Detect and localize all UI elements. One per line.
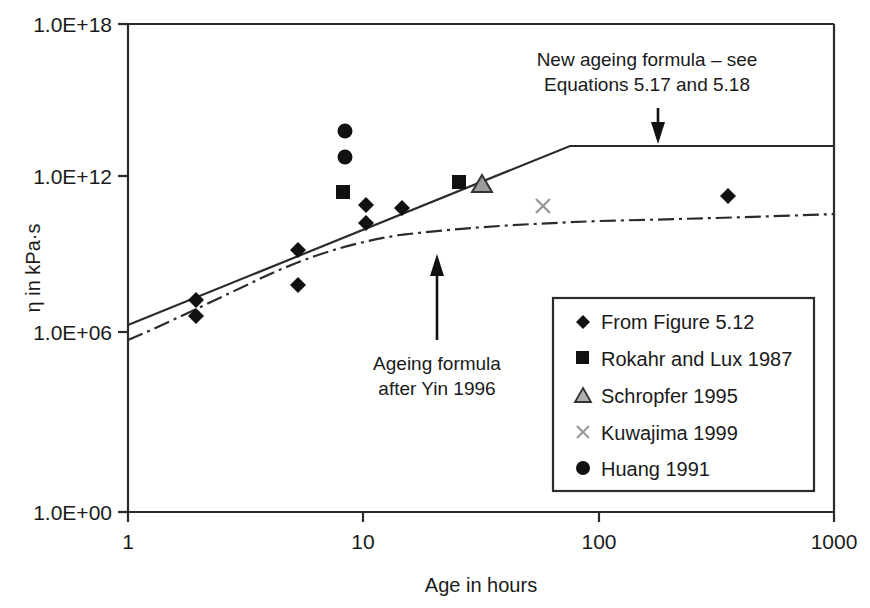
yin-ageing-formula-line2: after Yin 1996 xyxy=(378,378,495,399)
legend-label-kuwajima-1999: Kuwajima 1999 xyxy=(601,422,738,444)
x-tick-label-10: 10 xyxy=(351,530,374,553)
x-tick-label-1: 1 xyxy=(122,530,134,553)
legend-marker-circle-icon xyxy=(576,461,590,475)
marker-figure512-2 xyxy=(188,308,204,324)
marker-rokahr-2 xyxy=(452,175,466,189)
annotation-arrow-up-icon xyxy=(430,254,444,340)
marker-kuwajima-1 xyxy=(536,199,550,213)
x-axis-ticks xyxy=(128,512,834,522)
legend-label-from-figure-512: From Figure 5.12 xyxy=(601,311,754,333)
legend-label-huang-1991: Huang 1991 xyxy=(601,458,710,480)
marker-figure512-6 xyxy=(358,215,374,231)
data-markers xyxy=(188,124,736,325)
marker-rokahr-1 xyxy=(336,185,350,199)
new-ageing-formula-annotation: New ageing formula – see Equations 5.17 … xyxy=(537,49,758,144)
marker-figure512-4 xyxy=(290,277,306,293)
y-axis-ticks xyxy=(118,24,128,512)
marker-figure512-7 xyxy=(394,200,410,216)
legend-label-schropfer-1995: Schropfer 1995 xyxy=(601,385,738,407)
y-tick-label-1e18: 1.0E+18 xyxy=(33,13,112,36)
x-axis-title: Age in hours xyxy=(425,574,537,596)
marker-figure512-8 xyxy=(720,188,736,204)
x-axis-tick-labels: 1 10 100 1000 xyxy=(122,530,857,553)
annotation-arrow-down-icon xyxy=(651,108,665,144)
y-tick-label-1e00: 1.0E+00 xyxy=(33,501,112,524)
x-tick-label-1000: 1000 xyxy=(811,530,858,553)
marker-figure512-5 xyxy=(358,197,374,213)
marker-figure512-3 xyxy=(290,242,306,258)
new-ageing-formula-line1: New ageing formula – see xyxy=(537,49,758,70)
y-tick-label-1e06: 1.0E+06 xyxy=(33,321,112,344)
yin-ageing-formula-line1: Ageing formula xyxy=(373,353,501,374)
legend: From Figure 5.12 Rokahr and Lux 1987 Sch… xyxy=(553,298,814,491)
marker-huang-2 xyxy=(338,150,353,165)
marker-huang-1 xyxy=(338,124,353,139)
x-tick-label-100: 100 xyxy=(581,530,616,553)
y-axis-tick-labels: 1.0E+18 1.0E+12 1.0E+06 1.0E+00 xyxy=(33,13,112,524)
yin-ageing-formula-annotation: Ageing formula after Yin 1996 xyxy=(373,254,501,399)
ageing-viscosity-chart: 1.0E+18 1.0E+12 1.0E+06 1.0E+00 1 10 100… xyxy=(0,0,870,608)
figure-container: 1.0E+18 1.0E+12 1.0E+06 1.0E+00 1 10 100… xyxy=(0,0,870,608)
new-ageing-formula-line2: Equations 5.17 and 5.18 xyxy=(544,74,750,95)
legend-label-rokahr-and-lux-1987: Rokahr and Lux 1987 xyxy=(601,348,792,370)
legend-marker-square-icon xyxy=(576,351,589,364)
y-tick-label-1e12: 1.0E+12 xyxy=(33,165,112,188)
y-axis-title: η in kPa·s xyxy=(22,224,44,313)
